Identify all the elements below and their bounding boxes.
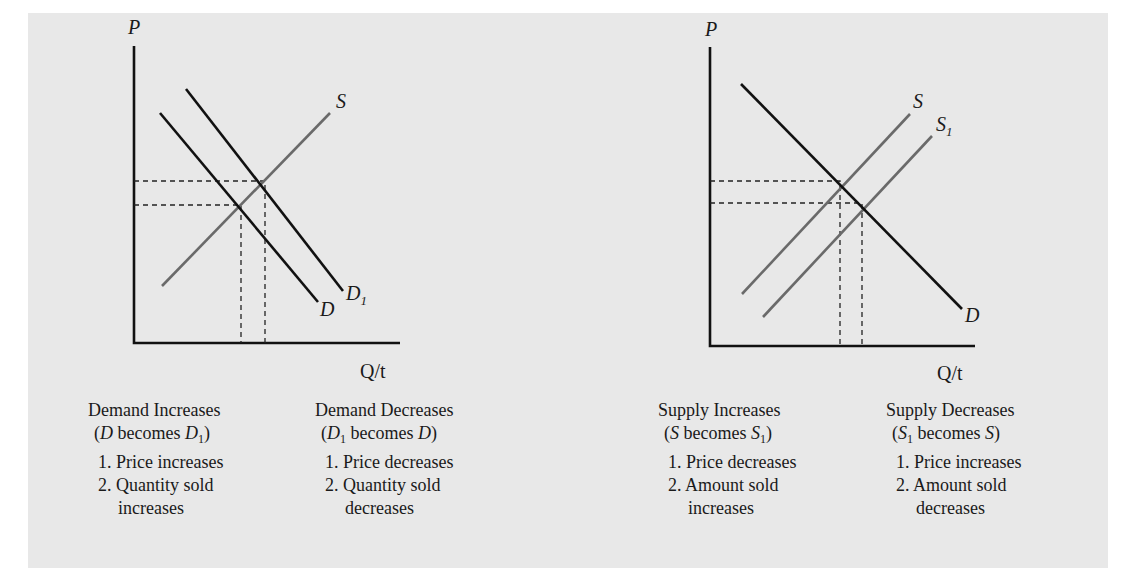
caption-title: Supply Increases: [658, 399, 796, 422]
caption-item-2-cont: decreases: [315, 497, 453, 520]
demand-curve-d1-label: D1: [345, 282, 367, 308]
caption-item-2-cont: decreases: [886, 497, 1021, 520]
caption-shift: (D becomes D1): [88, 422, 223, 451]
supply-curve-label: S: [913, 90, 923, 112]
caption-item-2: 2. Amount sold: [658, 474, 796, 497]
demand-curve-d: [160, 113, 318, 302]
caption-demand-decreases: Demand Decreases (D1 becomes D) 1. Price…: [315, 399, 453, 520]
demand-curve-d: [741, 84, 962, 309]
equilibrium-guide-d: [134, 205, 241, 343]
supply-shift-chart: P S S1 D Q/t: [704, 18, 980, 384]
supply-curve-s1-label: S1: [936, 113, 953, 139]
caption-title: Supply Decreases: [886, 399, 1021, 422]
caption-supply-increases: Supply Increases (S becomes S1) 1. Price…: [658, 399, 796, 520]
caption-demand-increases: Demand Increases (D becomes D1) 1. Price…: [88, 399, 223, 520]
equilibrium-guide-s: [710, 181, 840, 346]
supply-curve-label: S: [336, 90, 346, 112]
caption-item-2-cont: increases: [658, 497, 796, 520]
caption-title: Demand Increases: [88, 399, 223, 422]
demand-curve-label: D: [319, 298, 335, 320]
caption-title: Demand Decreases: [315, 399, 453, 422]
price-axis-label: P: [127, 16, 140, 38]
caption-item-1: 1. Price decreases: [658, 451, 796, 474]
caption-item-2: 2. Quantity sold: [88, 474, 223, 497]
caption-shift: (S1 becomes S): [886, 422, 1021, 451]
quantity-axis-label: Q/t: [937, 362, 963, 384]
demand-curve-label: D: [964, 304, 980, 326]
supply-curve-s1: [763, 136, 932, 317]
caption-item-1: 1. Price increases: [886, 451, 1021, 474]
caption-item-2-cont: increases: [88, 497, 223, 520]
caption-item-1: 1. Price decreases: [315, 451, 453, 474]
caption-item-2: 2. Amount sold: [886, 474, 1021, 497]
supply-curve-s: [742, 114, 910, 294]
caption-supply-decreases: Supply Decreases (S1 becomes S) 1. Price…: [886, 399, 1021, 520]
caption-item-2: 2. Quantity sold: [315, 474, 453, 497]
caption-shift: (S becomes S1): [658, 422, 796, 451]
caption-item-1: 1. Price increases: [88, 451, 223, 474]
caption-shift: (D1 becomes D): [315, 422, 453, 451]
price-axis-label: P: [704, 18, 717, 40]
demand-shift-chart: P S D D1 Q/t: [127, 16, 400, 382]
quantity-axis-label: Q/t: [360, 360, 386, 382]
supply-curve-s: [162, 113, 330, 286]
equilibrium-guide-s1: [710, 203, 862, 346]
